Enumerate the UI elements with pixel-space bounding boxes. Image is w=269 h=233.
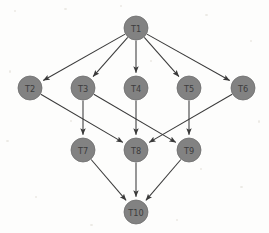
edge-t3-to-t9	[94, 94, 176, 142]
node-t4[interactable]: T4	[124, 76, 148, 100]
graph-svg: T1T2T3T4T5T6T7T8T9T10	[0, 0, 269, 233]
edge-t9-to-t10	[146, 160, 181, 201]
node-label-t10: T10	[127, 208, 143, 218]
node-label-t3: T3	[77, 84, 88, 94]
node-t8[interactable]: T8	[124, 138, 148, 162]
node-t1[interactable]: T1	[124, 16, 148, 40]
node-t7[interactable]: T7	[71, 138, 95, 162]
node-t3[interactable]: T3	[71, 76, 95, 100]
edge-t1-to-t3	[93, 37, 128, 76]
node-t6[interactable]: T6	[231, 76, 255, 100]
node-t5[interactable]: T5	[177, 76, 201, 100]
node-label-t2: T2	[24, 84, 35, 94]
node-t10[interactable]: T10	[124, 200, 148, 224]
node-label-t9: T9	[183, 146, 194, 156]
node-label-t1: T1	[130, 24, 141, 34]
edge-t2-to-t8	[41, 94, 123, 142]
node-t2[interactable]: T2	[18, 76, 42, 100]
edge-t1-to-t6	[147, 34, 230, 80]
edge-t6-to-t8	[149, 94, 232, 142]
node-label-t5: T5	[183, 84, 194, 94]
diagram-canvas: T1T2T3T4T5T6T7T8T9T10	[0, 0, 269, 233]
edges-layer	[41, 34, 232, 200]
edge-t1-to-t2	[43, 34, 125, 80]
edge-t7-to-t10	[91, 160, 126, 201]
node-label-t6: T6	[237, 84, 248, 94]
edge-t1-to-t5	[144, 37, 179, 76]
node-label-t7: T7	[77, 146, 88, 156]
node-label-t4: T4	[130, 84, 141, 94]
node-label-t8: T8	[130, 146, 141, 156]
node-t9[interactable]: T9	[177, 138, 201, 162]
